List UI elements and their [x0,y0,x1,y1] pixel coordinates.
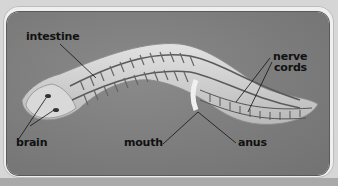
label-anus: anus [238,137,267,148]
flatworm-illustration [0,0,338,186]
eyespot-icon [45,94,51,98]
label-intestine: intestine [26,31,79,42]
label-mouth: mouth [124,137,163,148]
leader-line-mouth [163,112,198,144]
label-nerve-cords-line2: cords [274,62,307,73]
label-brain: brain [16,137,47,148]
